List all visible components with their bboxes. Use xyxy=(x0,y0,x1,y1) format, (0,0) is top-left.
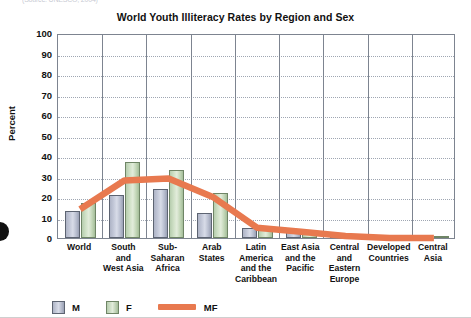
legend-line-icon xyxy=(158,304,196,310)
y-axis-tick-labels: 0102030405060708090100 xyxy=(0,34,52,239)
y-axis-tick: 40 xyxy=(6,152,52,162)
legend-item-f[interactable]: F xyxy=(106,301,132,314)
x-axis-label-line: Africa xyxy=(140,263,194,274)
x-axis-label-line: Europe xyxy=(317,274,371,285)
x-axis-label-line: Caribbean xyxy=(229,274,283,285)
y-axis-tick: 10 xyxy=(6,214,52,224)
legend-label: MF xyxy=(204,302,218,313)
y-axis-tick: 80 xyxy=(6,70,52,80)
y-axis-tick: 100 xyxy=(6,29,52,39)
mf-line-path xyxy=(80,179,434,238)
source-note: (Source: UNESCO, 2004) xyxy=(22,0,130,4)
y-axis-tick: 0 xyxy=(6,234,52,244)
y-axis-tick: 20 xyxy=(6,193,52,203)
x-axis-category-label: CentralAsia xyxy=(406,242,460,263)
x-axis-label-line: Central xyxy=(406,242,460,253)
legend-label: F xyxy=(126,302,132,313)
x-axis-label-line: Asia xyxy=(406,253,460,264)
legend-item-mf[interactable]: MF xyxy=(158,302,218,313)
x-axis-category-labels: WorldSouthandWest AsiaSub-SaharanAfricaA… xyxy=(57,242,455,300)
legend-swatch-icon xyxy=(52,301,65,314)
y-axis-tick: 50 xyxy=(6,132,52,142)
y-axis-tick: 30 xyxy=(6,173,52,183)
plot-area xyxy=(57,34,455,239)
chart-legend: MFMF xyxy=(52,299,243,315)
chart-title: World Youth Illiteracy Rates by Region a… xyxy=(0,11,471,23)
y-axis-tick: 90 xyxy=(6,50,52,60)
legend-label: M xyxy=(72,302,80,313)
legend-swatch-icon xyxy=(106,301,119,314)
y-axis-tick: 70 xyxy=(6,91,52,101)
x-axis-label-line: Eastern xyxy=(317,263,371,274)
mf-line-series xyxy=(58,35,456,240)
legend-item-m[interactable]: M xyxy=(52,301,80,314)
y-axis-tick: 60 xyxy=(6,111,52,121)
